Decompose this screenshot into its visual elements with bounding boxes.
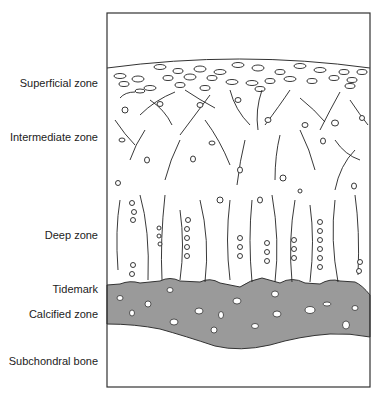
cartilage-diagram <box>0 0 385 403</box>
chondrocytes <box>116 98 365 277</box>
calcified-zone-region <box>107 278 370 349</box>
superficial-cells <box>114 63 367 94</box>
collagen-fibers <box>115 90 368 282</box>
articular-surface <box>107 59 370 68</box>
